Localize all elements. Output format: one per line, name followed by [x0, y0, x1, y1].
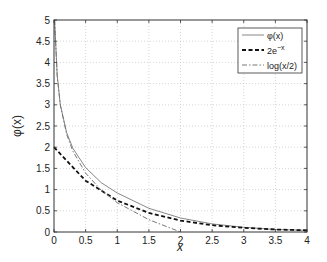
- x-tick-label: 0: [51, 235, 57, 246]
- y-tick-label: 2: [44, 142, 50, 153]
- y-axis-label: φ(x): [10, 115, 24, 137]
- line-chart: 00.511.522.533.5400.511.522.533.544.55 x…: [0, 0, 327, 262]
- y-tick-label: 1.5: [36, 163, 50, 174]
- legend-item-log: log(x/2): [267, 61, 297, 71]
- x-tick-label: 4: [304, 235, 310, 246]
- x-tick-label: 1: [114, 235, 120, 246]
- x-tick-label: 0.5: [79, 235, 93, 246]
- y-tick-label: 4: [44, 57, 50, 68]
- legend: φ(x) 2e−x log(x/2): [238, 28, 302, 73]
- legend-item-phi: φ(x): [267, 31, 283, 41]
- y-tick-label: 3: [44, 99, 50, 110]
- y-tick-label: 1: [44, 184, 50, 195]
- x-tick-label: 2.5: [205, 235, 219, 246]
- x-tick-label: 3.5: [268, 235, 282, 246]
- x-tick-label: 3: [241, 235, 247, 246]
- y-tick-label: 4.5: [36, 36, 50, 47]
- y-tick-label: 2.5: [36, 121, 50, 132]
- y-tick-label: 0: [44, 227, 50, 238]
- y-tick-label: 5: [44, 15, 50, 26]
- x-tick-label: 1.5: [142, 235, 156, 246]
- x-axis-label: x: [176, 240, 184, 254]
- y-tick-label: 0.5: [36, 205, 50, 216]
- y-tick-label: 3.5: [36, 78, 50, 89]
